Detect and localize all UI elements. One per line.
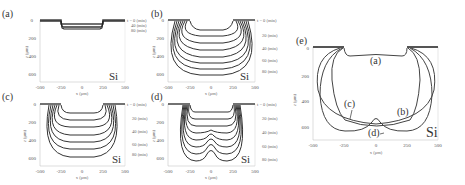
- svg-text:z (μm): z (μm): [22, 129, 27, 142]
- svg-text:(a): (a): [370, 55, 381, 67]
- svg-text:40 (min): 40 (min): [262, 46, 278, 51]
- svg-text:250: 250: [99, 169, 107, 174]
- svg-text:x (μm): x (μm): [205, 175, 218, 180]
- svg-text:t = 0 (min): t = 0 (min): [127, 102, 147, 107]
- svg-text:80 (min): 80 (min): [262, 157, 278, 162]
- svg-text:0: 0: [81, 85, 84, 90]
- svg-text:500: 500: [251, 85, 259, 90]
- svg-text:t = 0 (min): t = 0 (min): [257, 102, 277, 107]
- svg-text:500: 500: [251, 169, 259, 174]
- svg-text:x (μm): x (μm): [76, 175, 89, 180]
- panel-c: (c) 0 200 400 600 z (μm) -500 -250 0 250…: [2, 91, 148, 180]
- svg-text:0: 0: [81, 169, 84, 174]
- svg-text:400: 400: [302, 99, 310, 104]
- svg-text:-500: -500: [35, 85, 45, 90]
- svg-text:500: 500: [434, 143, 442, 148]
- svg-text:x (μm): x (μm): [76, 91, 89, 96]
- svg-text:x (μm): x (μm): [370, 150, 383, 155]
- svg-text:250: 250: [229, 169, 237, 174]
- svg-text:500: 500: [121, 85, 129, 90]
- svg-text:20 (min): 20 (min): [132, 116, 148, 121]
- svg-text:z (μm): z (μm): [24, 45, 29, 58]
- svg-text:200: 200: [157, 120, 165, 125]
- svg-text:0: 0: [162, 18, 165, 23]
- svg-text:400: 400: [157, 138, 165, 143]
- svg-text:0: 0: [34, 102, 37, 107]
- svg-text:600: 600: [157, 156, 165, 161]
- svg-text:20 (min): 20 (min): [262, 33, 278, 38]
- svg-text:200: 200: [157, 36, 165, 41]
- svg-text:-250: -250: [185, 85, 195, 90]
- svg-text:-500: -500: [163, 169, 173, 174]
- svg-text:600: 600: [29, 72, 37, 77]
- svg-text:x (μm): x (μm): [205, 91, 218, 96]
- svg-text:Si: Si: [112, 153, 121, 165]
- svg-text:60 (min): 60 (min): [132, 142, 148, 147]
- svg-text:600: 600: [29, 156, 37, 161]
- svg-text:z (μm): z (μm): [151, 129, 156, 142]
- svg-text:60 (min): 60 (min): [262, 144, 278, 149]
- svg-text:200: 200: [302, 74, 310, 79]
- svg-text:200: 200: [29, 120, 37, 125]
- svg-text:(d): (d): [368, 127, 380, 139]
- svg-text:-500: -500: [163, 85, 173, 90]
- svg-text:400: 400: [29, 138, 37, 143]
- svg-text:80 (min): 80 (min): [262, 69, 278, 74]
- panel-c-label: (c): [2, 91, 13, 103]
- svg-text:0: 0: [307, 46, 310, 51]
- figure: (a) 0 200 400 600 z (μm) -500 -250 0 250…: [0, 0, 465, 185]
- svg-text:400: 400: [29, 54, 37, 59]
- svg-text:z (μm): z (μm): [151, 45, 156, 58]
- panel-e-label: (e): [296, 35, 307, 47]
- svg-text:0: 0: [210, 85, 213, 90]
- svg-text:-250: -250: [56, 169, 66, 174]
- svg-text:80 (min): 80 (min): [131, 28, 147, 33]
- svg-text:z (μm): z (μm): [292, 93, 297, 106]
- svg-text:600: 600: [157, 72, 165, 77]
- svg-text:Si: Si: [240, 70, 249, 82]
- svg-text:0: 0: [162, 102, 165, 107]
- svg-text:250: 250: [99, 85, 107, 90]
- svg-text:(b): (b): [397, 106, 409, 118]
- panel-b: (b) 0 200 400 600 z (μm) -500 -250 0 250…: [151, 8, 278, 96]
- svg-text:-500: -500: [308, 143, 318, 148]
- panel-d: (d) 0 200 400 600 z (μm) -500 -250 0 250…: [151, 91, 278, 180]
- svg-text:20 (min): 20 (min): [262, 116, 278, 121]
- svg-text:-250: -250: [56, 85, 66, 90]
- svg-text:0: 0: [210, 169, 213, 174]
- panel-a-label: (a): [2, 8, 13, 20]
- svg-text:80 (min): 80 (min): [132, 152, 148, 157]
- figure-canvas: (a) 0 200 400 600 z (μm) -500 -250 0 250…: [0, 0, 465, 185]
- svg-text:(c): (c): [344, 98, 355, 110]
- svg-text:600: 600: [302, 125, 310, 130]
- svg-text:t = 0 (min): t = 0 (min): [257, 18, 277, 23]
- svg-text:60 (min): 60 (min): [262, 58, 278, 63]
- svg-text:Si: Si: [241, 153, 250, 165]
- svg-text:-250: -250: [339, 143, 349, 148]
- svg-text:500: 500: [121, 169, 129, 174]
- svg-text:-250: -250: [185, 169, 195, 174]
- svg-text:40 (min): 40 (min): [132, 129, 148, 134]
- svg-text:400: 400: [157, 54, 165, 59]
- svg-text:0: 0: [375, 143, 378, 148]
- panel-e: (e) 0 200 400 600 z (μm) -500 -250 0 250…: [292, 35, 442, 155]
- panel-a: (a) 0 200 400 600 z (μm) -500 -250 0 250…: [2, 8, 147, 96]
- svg-text:0: 0: [31, 18, 34, 23]
- svg-text:-500: -500: [35, 169, 45, 174]
- svg-text:Si: Si: [426, 125, 438, 140]
- svg-text:40 (min): 40 (min): [262, 130, 278, 135]
- svg-text:Si: Si: [109, 70, 118, 82]
- svg-text:250: 250: [229, 85, 237, 90]
- svg-text:250: 250: [403, 143, 411, 148]
- svg-text:200: 200: [29, 36, 37, 41]
